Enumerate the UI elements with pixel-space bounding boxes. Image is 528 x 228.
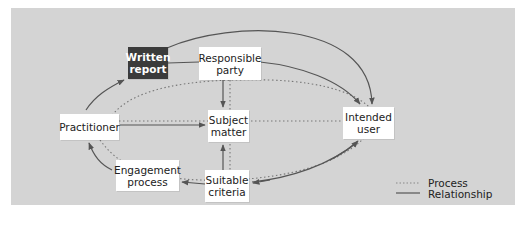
node-suitable-criteria: Suitable criteria (205, 170, 249, 202)
node-intended-user-line2: user (357, 123, 380, 135)
node-suitable-criteria-line1: Suitable (206, 174, 249, 186)
node-suitable-criteria-line2: criteria (208, 186, 245, 198)
node-written-report: Written report (128, 47, 168, 79)
legend-lines (396, 183, 420, 193)
node-subject-matter-line1: Subject (209, 114, 248, 126)
node-responsible-party-line1: Responsible (199, 52, 262, 64)
node-engagement-process-line2: process (127, 176, 167, 188)
edge-written-report-responsible-party (168, 62, 199, 63)
node-written-report-line2: report (129, 63, 166, 75)
node-engagement-process-line1: Engagement (114, 164, 181, 176)
edge-arrowhead-intended-user (330, 141, 358, 160)
node-practitioner: Practitioner (60, 114, 119, 140)
diagram-canvas: Written report Responsible party Practit… (0, 0, 528, 228)
edge-practitioner-written-report (86, 80, 124, 110)
edge-responsible-party-intended-user (260, 62, 360, 104)
edge-suitable-criteria-engagement-process (182, 182, 205, 184)
node-intended-user: Intended user (343, 107, 394, 139)
node-responsible-party: Responsible party (199, 47, 261, 80)
legend-relationship-label: Relationship (428, 188, 492, 200)
node-engagement-process: Engagement process (116, 160, 179, 191)
node-subject-matter-line2: matter (211, 126, 247, 138)
node-responsible-party-line2: party (216, 64, 244, 76)
node-written-report-line1: Written (126, 51, 171, 63)
node-intended-user-line1: Intended (345, 111, 392, 123)
node-subject-matter: Subject matter (208, 110, 249, 142)
edge-engagement-process-practitioner (89, 143, 112, 170)
edge-written-report-intended-user (167, 31, 372, 104)
edge-intended-user-suitable-criteria (252, 142, 357, 182)
node-practitioner-line1: Practitioner (59, 121, 120, 133)
